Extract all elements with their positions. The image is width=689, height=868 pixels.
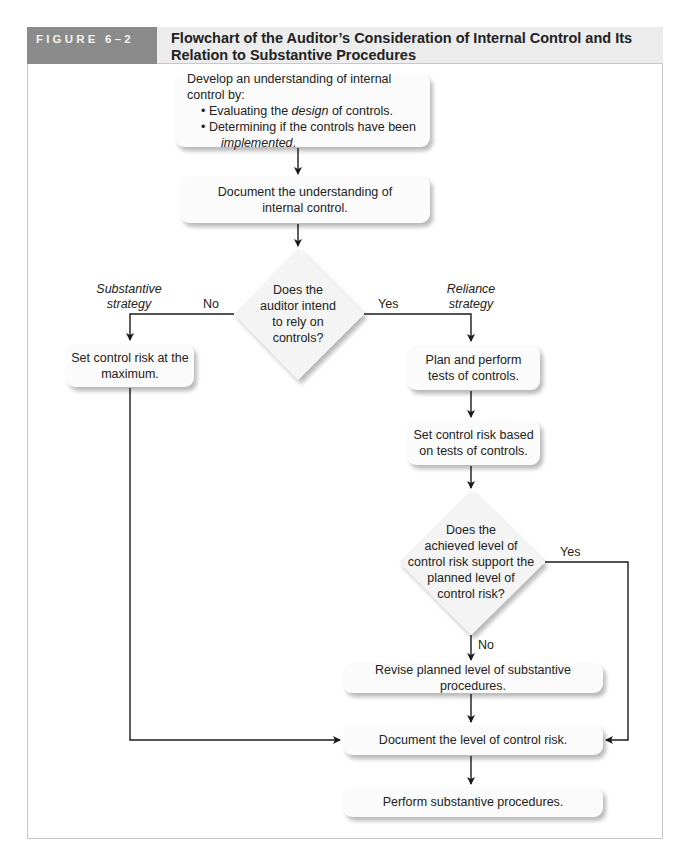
node-revise-planned-level: Revise planned level of substantive proc… [343, 663, 603, 693]
label-no-1: No [203, 297, 219, 312]
label-substantive-strategy: Substantive strategy [74, 282, 184, 312]
node-develop-understanding: Develop an understanding of internal con… [175, 74, 430, 147]
node-set-control-risk-based: Set control risk based on tests of contr… [407, 420, 540, 465]
node-document-understanding: Document the understanding of internal c… [180, 176, 430, 223]
develop-bullet-2: • Determining if the controls have been … [187, 119, 416, 151]
node-document-level-control-risk: Document the level of control risk. [343, 725, 603, 755]
label-no-2: No [478, 638, 494, 653]
node-plan-perform-tests: Plan and perform tests of controls. [407, 345, 540, 390]
node-set-control-risk-max: Set control risk at the maximum. [66, 344, 194, 387]
bullet-dot-icon: • [201, 104, 205, 118]
decision-rely-text: Does the auditor intend to rely on contr… [240, 282, 356, 346]
bullet-dot-icon: • [201, 120, 205, 134]
node-perform-substantive-procedures: Perform substantive procedures. [343, 787, 603, 817]
develop-bullet-1: • Evaluating the design of controls. [187, 103, 393, 119]
develop-intro: Develop an understanding of internal con… [187, 71, 430, 103]
label-yes-1: Yes [378, 297, 398, 312]
label-reliance-strategy: Reliance strategy [435, 282, 507, 312]
label-yes-2: Yes [560, 545, 580, 560]
decision-support-text: Does the achieved level of control risk … [405, 522, 537, 602]
